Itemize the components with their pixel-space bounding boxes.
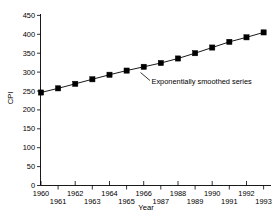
y-axis-title: CPI — [6, 92, 15, 105]
x-tick-label: 1964 — [101, 189, 117, 198]
x-tick-label: 1989 — [187, 197, 203, 206]
x-tick-label: 1965 — [118, 197, 134, 206]
data-point — [261, 30, 266, 35]
x-tick-label: 1960 — [33, 189, 49, 198]
y-tick-label: 50 — [27, 162, 35, 171]
x-axis-title: Year — [138, 203, 154, 212]
data-point — [141, 64, 146, 69]
data-point — [124, 68, 129, 73]
y-tick-label: 200 — [23, 105, 35, 114]
data-point — [56, 86, 61, 91]
data-point — [227, 39, 232, 44]
x-tick-label: 1988 — [170, 189, 186, 198]
y-tick-label: 250 — [23, 87, 35, 96]
x-tick-label: 1962 — [67, 189, 83, 198]
chart-figure: 0 50 100 150 200 250 300 350 400 450 CPI — [0, 0, 277, 218]
x-tick-label: 1961 — [50, 197, 66, 206]
x-tick-label: 1966 — [135, 189, 151, 198]
data-point — [158, 60, 163, 65]
annotation-label: Exponentially smoothed series — [152, 77, 253, 86]
data-point — [175, 56, 180, 61]
data-point — [90, 77, 95, 82]
y-tick-label: 300 — [23, 68, 35, 77]
y-tick-label: 150 — [23, 124, 35, 133]
y-tick-label: 350 — [23, 49, 35, 58]
x-tick-label: 1993 — [255, 197, 271, 206]
x-tick-label: 1963 — [84, 197, 100, 206]
data-point — [210, 45, 215, 50]
data-point — [73, 81, 78, 86]
data-point — [38, 90, 43, 95]
y-tick-label: 400 — [23, 30, 35, 39]
data-point — [107, 72, 112, 77]
x-tick-label: 1992 — [238, 189, 254, 198]
data-point — [193, 51, 198, 56]
data-point — [244, 35, 249, 40]
chart-canvas: 0 50 100 150 200 250 300 350 400 450 CPI — [0, 0, 277, 218]
y-tick-label: 100 — [23, 143, 35, 152]
x-tick-label: 1991 — [221, 197, 237, 206]
y-tick-label: 450 — [23, 11, 35, 20]
x-tick-label: 1987 — [153, 197, 169, 206]
x-tick-label: 1990 — [204, 189, 220, 198]
